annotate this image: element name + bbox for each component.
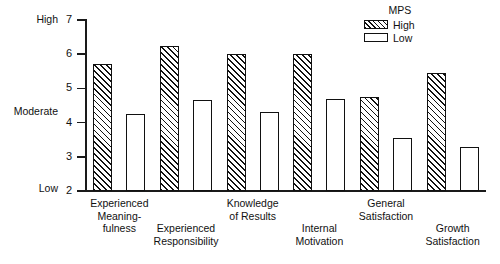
- y-tick-label: 4: [58, 116, 72, 128]
- legend-label-high: High: [393, 19, 415, 31]
- legend-title: MPS: [364, 4, 436, 16]
- bar-low-0: [126, 114, 145, 191]
- bar-low-2: [260, 112, 279, 191]
- x-category-label-5: Growth Satisfaction: [398, 222, 500, 247]
- legend-label-low: Low: [393, 32, 412, 44]
- y-tick-mark: [77, 156, 86, 158]
- y-tick-label: 2: [58, 184, 72, 196]
- plot-area: [86, 20, 486, 191]
- y-tick-label: 6: [58, 47, 72, 59]
- bar-high-4: [360, 97, 379, 191]
- bar-high-2: [227, 54, 246, 191]
- bar-high-1: [160, 46, 179, 191]
- y-axis-anchor-moderate: Moderate: [2, 105, 58, 117]
- y-tick-label: 7: [58, 13, 72, 25]
- legend-swatch-low-icon: [364, 33, 388, 42]
- x-category-label-4: General Satisfaction: [331, 197, 441, 222]
- y-tick-mark: [77, 190, 86, 192]
- bar-high-5: [427, 73, 446, 191]
- x-category-label-3: Internal Motivation: [264, 222, 374, 247]
- y-tick-mark: [77, 88, 86, 90]
- legend-item-low: Low: [364, 31, 478, 44]
- bar-low-3: [326, 99, 345, 191]
- y-axis-anchor-high: High: [10, 13, 58, 25]
- legend-item-high: High: [364, 18, 478, 31]
- bar-low-5: [460, 147, 479, 191]
- x-category-label-1: Experienced Responsibility: [131, 222, 241, 247]
- y-tick-label: 5: [58, 81, 72, 93]
- legend-swatch-high-icon: [364, 20, 388, 29]
- legend: MPS High Low: [358, 4, 478, 44]
- bar-high-3: [293, 54, 312, 191]
- y-tick-mark: [77, 53, 86, 55]
- x-category-label-2: Knowledge of Results: [198, 197, 308, 222]
- y-tick-label: 3: [58, 150, 72, 162]
- y-tick-mark: [77, 19, 86, 21]
- y-axis-anchor-low: Low: [10, 182, 58, 194]
- bar-low-4: [393, 138, 412, 191]
- bar-low-1: [193, 100, 212, 191]
- bar-high-0: [93, 64, 112, 191]
- y-tick-mark: [77, 122, 86, 124]
- bar-chart: High Moderate Low 234567 Experienced Mea…: [0, 0, 500, 264]
